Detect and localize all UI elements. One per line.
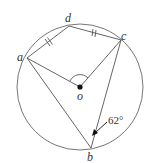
label-a: a	[17, 50, 23, 64]
label-b: b	[87, 150, 93, 163]
segment-ab	[27, 58, 91, 148]
label-o: o	[77, 89, 83, 103]
label-d: d	[65, 11, 72, 25]
angle-label-62: 62°	[108, 114, 123, 126]
segment-ao	[27, 58, 80, 87]
center-angle-arc	[70, 75, 88, 81]
segment-ad	[27, 26, 69, 58]
circle-diagram: a d c o b 62°	[0, 0, 147, 163]
label-c: c	[121, 29, 127, 43]
